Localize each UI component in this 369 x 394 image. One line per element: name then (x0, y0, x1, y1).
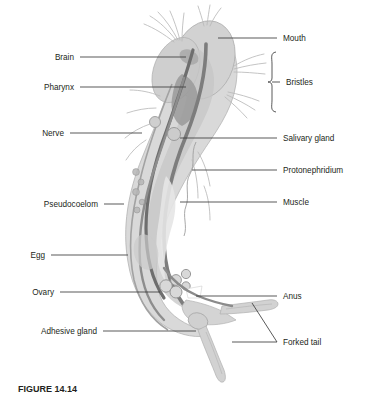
figure-caption: FIGURE 14.14 (18, 384, 77, 394)
label-bristles-text: Bristles (286, 78, 313, 87)
label-ovary-text: Ovary (32, 288, 55, 297)
anatomy-figure: Brain Pharynx Nerve Pseudocoelom Egg Ova (0, 0, 369, 394)
label-pseudocoelom-text: Pseudocoelom (44, 200, 98, 209)
label-pharynx-text: Pharynx (44, 83, 74, 92)
label-forked-tail-text: Forked tail (283, 338, 321, 347)
label-nerve-text: Nerve (42, 129, 64, 138)
label-brain-text: Brain (55, 53, 75, 62)
label-salivary-gland-text: Salivary gland (283, 134, 335, 143)
salivary-gland-organ (168, 128, 181, 141)
label-mouth-text: Mouth (283, 34, 306, 43)
label-anus-text: Anus (283, 292, 302, 301)
label-adhesive-gland-text: Adhesive gland (41, 327, 97, 336)
label-egg-text: Egg (30, 251, 45, 260)
label-muscle-text: Muscle (283, 198, 309, 207)
anatomy-diagram-canvas: Brain Pharynx Nerve Pseudocoelom Egg Ova (0, 0, 369, 394)
salivary-gland-organ-upper (150, 117, 161, 128)
label-protonephridium-text: Protonephridium (283, 166, 343, 175)
